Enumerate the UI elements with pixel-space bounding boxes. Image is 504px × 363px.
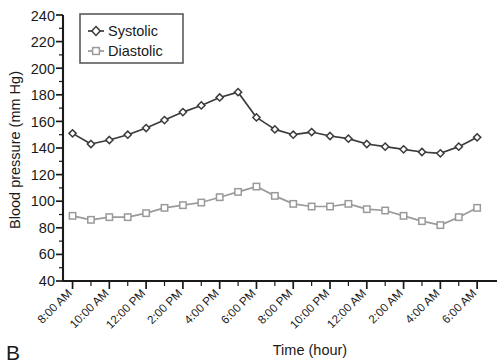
data-point-marker <box>216 94 223 101</box>
legend: Systolic Diastolic <box>80 14 183 63</box>
data-point-marker <box>474 205 480 211</box>
data-point-marker <box>272 193 278 199</box>
x-tick-label: 10:00 PM <box>287 286 332 331</box>
data-point-marker <box>124 131 131 138</box>
x-axis-tick-labels: 8:00 AM10:00 AM12:00 PM2:00 PM4:00 PM6:0… <box>34 286 478 331</box>
data-point-marker <box>437 222 443 228</box>
data-point-marker <box>198 199 204 205</box>
x-axis-ticks <box>73 281 478 289</box>
chart-svg: Blood pressure (mm Hg) 240 220 200 180 1… <box>0 0 504 363</box>
data-point-marker <box>253 183 259 189</box>
y-axis-tick-labels: 240 220 200 180 160 140 120 100 80 60 40 <box>31 8 55 289</box>
data-point-marker <box>308 203 314 209</box>
legend-label-diastolic: Diastolic <box>108 43 163 59</box>
data-point-marker <box>106 214 112 220</box>
data-point-marker <box>69 213 75 219</box>
x-tick-label: 2:00 AM <box>365 286 405 326</box>
series-systolic <box>69 89 481 157</box>
data-point-marker <box>400 146 407 153</box>
data-point-marker <box>456 214 462 220</box>
data-point-marker <box>106 136 113 143</box>
data-point-marker <box>290 201 296 207</box>
y-axis-title-group: Blood pressure (mm Hg) <box>7 71 23 229</box>
series-line <box>73 92 478 153</box>
data-point-marker <box>143 124 150 131</box>
y-tick-label: 160 <box>31 114 55 130</box>
data-point-marker <box>161 116 168 123</box>
legend-label-systolic: Systolic <box>108 23 158 39</box>
data-point-marker <box>143 210 149 216</box>
data-point-marker <box>382 143 389 150</box>
data-point-marker <box>179 108 186 115</box>
y-tick-label: 80 <box>39 220 55 236</box>
data-point-marker <box>216 194 222 200</box>
y-tick-label: 180 <box>31 87 55 103</box>
x-tick-label: 6:00 PM <box>218 286 258 326</box>
data-point-marker <box>290 131 297 138</box>
data-point-marker <box>198 102 205 109</box>
data-point-marker <box>363 140 370 147</box>
y-tick-label: 220 <box>31 34 55 50</box>
data-point-marker <box>455 143 462 150</box>
y-tick-label: 120 <box>31 167 55 183</box>
series-diastolic <box>69 183 480 228</box>
data-point-marker <box>400 213 406 219</box>
y-tick-label: 200 <box>31 61 55 77</box>
x-tick-label: 12:00 PM <box>103 286 148 331</box>
data-point-marker <box>180 202 186 208</box>
data-point-marker <box>345 201 351 207</box>
data-point-marker <box>418 148 425 155</box>
x-axis-title: Time (hour) <box>273 342 347 358</box>
data-point-marker <box>364 206 370 212</box>
data-point-marker <box>474 134 481 141</box>
data-point-marker <box>419 218 425 224</box>
panel-label: B <box>6 341 20 363</box>
y-tick-label: 40 <box>39 273 55 289</box>
y-tick-label: 140 <box>31 140 55 156</box>
data-point-marker <box>69 130 76 137</box>
x-tick-label: 2:00 PM <box>144 286 184 326</box>
y-tick-label: 100 <box>31 193 55 209</box>
chart-series-layer <box>69 89 481 229</box>
x-tick-label: 6:00 AM <box>439 286 479 326</box>
data-point-marker <box>382 207 388 213</box>
data-point-marker <box>88 217 94 223</box>
y-tick-label: 240 <box>31 8 55 24</box>
blood-pressure-chart-figure: Blood pressure (mm Hg) 240 220 200 180 1… <box>0 0 504 363</box>
y-axis-ticks <box>56 15 63 281</box>
data-point-marker <box>326 132 333 139</box>
x-tick-label: 4:00 AM <box>402 286 442 326</box>
data-point-marker <box>327 203 333 209</box>
y-tick-label: 60 <box>39 246 55 262</box>
data-point-marker <box>161 205 167 211</box>
legend-marker-square-icon <box>93 48 100 55</box>
data-point-marker <box>437 150 444 157</box>
data-point-marker <box>308 128 315 135</box>
x-tick-label: 4:00 PM <box>181 286 221 326</box>
data-point-marker <box>125 214 131 220</box>
y-axis-title: Blood pressure (mm Hg) <box>7 71 23 229</box>
data-point-marker <box>235 189 241 195</box>
data-point-marker <box>87 140 94 147</box>
data-point-marker <box>345 135 352 142</box>
x-tick-label: 12:00 AM <box>324 286 368 330</box>
